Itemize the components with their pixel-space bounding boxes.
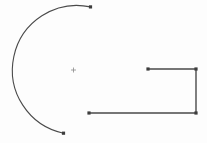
vertex-bottom-right-marker[interactable] bbox=[194, 111, 197, 114]
vertex-top-left-marker[interactable] bbox=[146, 67, 149, 70]
arc-endpoint-bottom-marker[interactable] bbox=[62, 132, 65, 135]
vertex-top-right-marker[interactable] bbox=[194, 67, 197, 70]
vertex-bottom-left-marker[interactable] bbox=[87, 111, 90, 114]
geometry-svg bbox=[0, 0, 207, 143]
arc-endpoint-top-marker[interactable] bbox=[89, 5, 92, 8]
canvas-background bbox=[0, 0, 207, 143]
drawing-canvas[interactable] bbox=[0, 0, 207, 143]
